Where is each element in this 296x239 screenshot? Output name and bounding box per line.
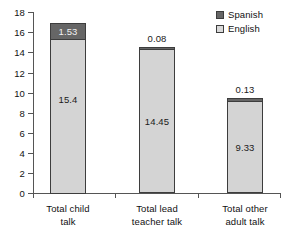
category-label-total-lead-teacher-talk: Total lead teacher talk [118,202,196,228]
bar-3-spanish-value: 0.13 [227,85,263,95]
x-tick-1 [115,193,116,198]
category-label-line-2: adult talk [206,215,284,228]
bar-2-spanish-value: 0.08 [139,34,175,44]
y-tick-14 [28,52,33,53]
y-axis-line [33,12,34,194]
y-tick-10 [28,93,33,94]
x-tick-2 [198,193,199,198]
y-tick-6 [28,133,33,134]
y-tick-label-2: 2 [0,169,25,179]
y-tick-18 [28,12,33,13]
y-tick-label-12: 12 [0,69,25,79]
bar-2-segment-english[interactable]: 14.45 [139,49,175,193]
y-tick-label-4: 4 [0,149,25,159]
y-tick-8 [28,113,33,114]
stacked-bar-chart: 18 16 14 12 10 8 6 4 2 0 1.53 15.4 Total… [0,0,296,239]
y-tick-label-10: 10 [0,89,25,99]
chart-legend: Spanish English [216,8,294,36]
y-tick-label-8: 8 [0,109,25,119]
y-tick-label-16: 16 [0,28,25,38]
bar-group-total-lead-teacher-talk[interactable]: 0.08 14.45 [139,47,175,193]
legend-item-english[interactable]: English [216,22,294,35]
bar-2-english-value: 14.45 [140,117,174,127]
category-label-line-2: teacher talk [118,215,196,228]
legend-label-spanish: Spanish [228,10,263,20]
y-tick-label-0: 0 [0,189,25,199]
spanish-swatch-icon [216,11,224,19]
y-tick-label-6: 6 [0,129,25,139]
bar-3-segment-english[interactable]: 9.33 [227,101,263,193]
y-tick-12 [28,73,33,74]
bar-1-segment-english[interactable]: 15.4 [50,39,86,194]
bar-group-total-other-adult-talk[interactable]: 0.13 9.33 [227,98,263,193]
y-tick-2 [28,173,33,174]
category-label-line-1: Total lead [118,202,196,215]
y-tick-4 [28,153,33,154]
legend-label-english: English [228,24,260,34]
y-tick-label-14: 14 [0,48,25,58]
y-tick-16 [28,32,33,33]
x-tick-end [280,193,281,198]
category-label-line-1: Total child [32,202,104,215]
bar-1-english-value: 15.4 [51,95,85,105]
bar-1-spanish-value: 1.53 [51,27,85,37]
english-swatch-icon [216,25,224,33]
x-tick-start [33,193,34,198]
category-label-total-other-adult-talk: Total other adult talk [206,202,284,228]
bar-1-segment-spanish[interactable]: 1.53 [50,23,86,39]
category-label-total-child-talk: Total child talk [32,202,104,228]
bar-3-english-value: 9.33 [228,143,262,153]
y-tick-label-18: 18 [0,8,25,18]
legend-item-spanish[interactable]: Spanish [216,8,294,21]
category-label-line-1: Total other [206,202,284,215]
bar-group-total-child-talk[interactable]: 1.53 15.4 [50,23,86,193]
category-label-line-2: talk [32,215,104,228]
